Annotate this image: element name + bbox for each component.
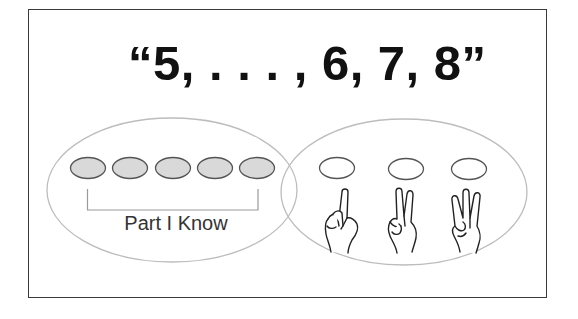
known-oval [71,158,106,179]
known-ovals [71,158,275,179]
counting-oval [320,158,355,179]
known-bracket [88,189,259,210]
one-finger-hand-icon [325,189,357,253]
known-set-ellipse [47,118,297,262]
two-finger-hand-icon [389,188,417,253]
counting-ovals [320,158,487,180]
known-oval [240,158,275,179]
counting-oval [389,159,424,180]
three-finger-hand-icon [452,189,480,253]
counting-oval [452,159,487,180]
known-oval [113,158,148,179]
known-oval [156,158,191,179]
diagram-canvas [0,0,578,319]
part-i-know-label: Part I Know [114,211,238,235]
known-oval [198,158,233,179]
